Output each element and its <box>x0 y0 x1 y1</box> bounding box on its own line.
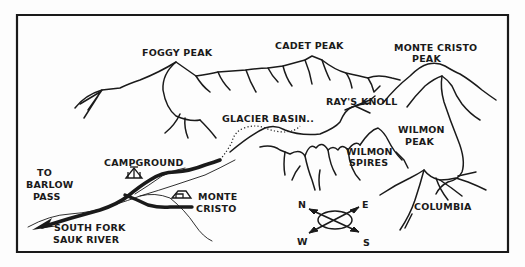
label-to-barlow-2: BARLOW <box>26 179 73 190</box>
house-icon <box>172 191 191 198</box>
compass-w: W <box>297 236 308 247</box>
label-monte-cristo-peak-2: PEAK <box>412 53 441 64</box>
label-wilmon-spires-1: WILMON <box>346 146 393 157</box>
compass-n: N <box>298 199 306 210</box>
label-columbia: COLUMBIA <box>414 201 472 212</box>
label-glacier-basin: GLACIER BASIN.. <box>222 113 314 124</box>
label-monte-cristo-town-1: MONTE <box>198 191 237 202</box>
trail-map: FOGGY PEAK CADET PEAK MONTE CRISTO PEAK … <box>0 0 525 267</box>
label-wilmon-peak-2: PEAK <box>405 136 434 147</box>
label-rays-knoll: RAY'S KNOLL <box>326 96 397 107</box>
road-line <box>42 160 220 227</box>
label-monte-cristo-town-2: CRISTO <box>196 203 236 214</box>
label-to-barlow-3: PASS <box>33 191 61 202</box>
label-cadet-peak: CADET PEAK <box>275 40 344 51</box>
label-river-2: SAUK RIVER <box>53 234 119 245</box>
compass-s: S <box>363 237 370 248</box>
label-river-1: SOUTH FORK <box>54 222 126 233</box>
label-monte-cristo-peak-1: MONTE CRISTO <box>394 42 477 53</box>
label-foggy-peak: FOGGY PEAK <box>142 47 212 58</box>
compass-icon <box>309 207 359 233</box>
label-to-barlow-1: TO <box>37 167 52 178</box>
tent-icon <box>126 167 142 178</box>
road-branch <box>125 195 192 207</box>
label-campground: CAMPGROUND <box>104 157 183 168</box>
compass-e: E <box>362 199 369 210</box>
label-wilmon-spires-2: SPIRES <box>349 157 388 168</box>
label-wilmon-peak-1: WILMON <box>398 124 445 135</box>
